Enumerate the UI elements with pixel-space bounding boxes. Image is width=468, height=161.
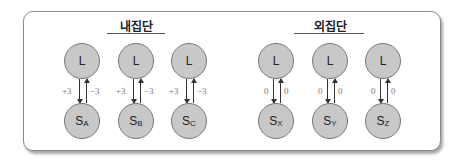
in-group-underline [107,33,165,34]
arrow-up [387,79,388,103]
down-label: +3 [62,86,72,96]
up-label: 0 [284,86,289,96]
subordinate-node-b: SB [118,103,154,139]
arrow-up [334,79,335,103]
arrow-up [140,79,141,103]
arrow-down [327,79,328,103]
subordinate-node-y: SY [312,103,348,139]
down-label: 0 [371,86,376,96]
arrow-down [186,79,187,103]
subordinate-node-c: SC [171,103,207,139]
leader-node: L [118,43,154,79]
arrow-down [273,79,274,103]
leader-node: L [171,43,207,79]
in-group-title: 내집단 [106,17,166,34]
up-label: −3 [144,86,154,96]
subordinate-node-a: SA [64,103,100,139]
arrow-up [86,79,87,103]
arrow-down [133,79,134,103]
down-label: 0 [318,86,323,96]
arrow-up [280,79,281,103]
up-label: 0 [338,86,343,96]
down-label: 0 [264,86,269,96]
arrow-down [79,79,80,103]
subordinate-node-z: SZ [365,103,401,139]
out-group-underline [294,33,364,34]
out-group-title: 외집단 [300,17,360,34]
down-label: +3 [116,86,126,96]
up-label: −3 [197,86,207,96]
up-label: −3 [90,86,100,96]
down-label: +3 [169,86,179,96]
leader-node: L [312,43,348,79]
leader-node: L [64,43,100,79]
leader-node: L [365,43,401,79]
arrow-down [380,79,381,103]
arrow-up [193,79,194,103]
leader-node: L [258,43,294,79]
up-label: 0 [391,86,396,96]
subordinate-node-x: SX [258,103,294,139]
